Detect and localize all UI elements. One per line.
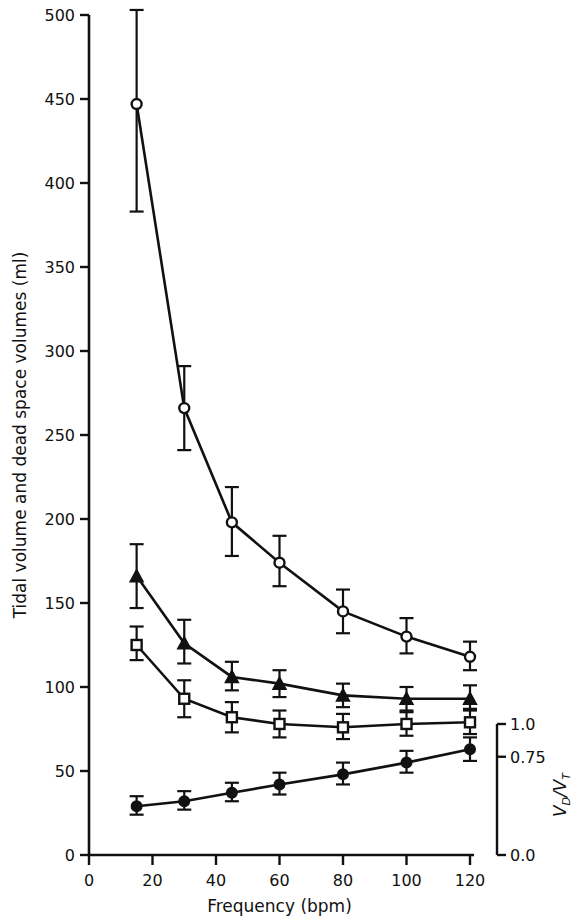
y-axis-title: Tidal volume and dead space volumes (ml) <box>10 252 30 620</box>
marker-filled-circle <box>338 769 348 779</box>
marker-filled-circle <box>132 801 142 811</box>
marker-open-square <box>402 719 412 729</box>
marker-filled-circle <box>275 779 285 789</box>
marker-open-circle <box>402 632 412 642</box>
data-series <box>130 10 477 815</box>
y-tick-label: 100 <box>44 678 75 697</box>
y2-tick-label: 0.75 <box>510 748 546 767</box>
x-axis-title: Frequency (bpm) <box>207 896 352 916</box>
marker-open-circle <box>465 652 475 662</box>
y2-tick-label: 0.0 <box>510 846 535 865</box>
marker-open-circle <box>227 517 237 527</box>
marker-open-circle <box>275 558 285 568</box>
marker-open-circle <box>132 99 142 109</box>
marker-filled-circle <box>227 788 237 798</box>
marker-open-square <box>465 717 475 727</box>
axis-labels: Frequency (bpm)Tidal volume and dead spa… <box>10 252 573 916</box>
y-tick-label: 450 <box>44 90 75 109</box>
y-tick-label: 300 <box>44 342 75 361</box>
y2-tick-label: 1.0 <box>510 715 535 734</box>
y-tick-label: 250 <box>44 426 75 445</box>
marker-open-circle <box>338 606 348 616</box>
series-line <box>137 104 470 657</box>
x-tick-label: 20 <box>142 871 162 890</box>
marker-filled-circle <box>465 744 475 754</box>
y2-axis-title: VD/VT <box>550 772 573 817</box>
marker-filled-circle <box>179 796 189 806</box>
marker-open-square <box>227 712 237 722</box>
x-tick-label: 0 <box>84 871 94 890</box>
marker-open-square <box>179 694 189 704</box>
y-tick-label: 200 <box>44 510 75 529</box>
x-tick-label: 60 <box>269 871 289 890</box>
series-4 <box>130 737 477 814</box>
x-tick-label: 80 <box>333 871 353 890</box>
y-tick-label: 400 <box>44 174 75 193</box>
marker-open-square <box>338 722 348 732</box>
y-tick-label: 350 <box>44 258 75 277</box>
x-tick-label: 40 <box>206 871 226 890</box>
y-tick-label: 50 <box>55 762 75 781</box>
line-chart: 0501001502002503003504004505000204060801… <box>0 0 581 924</box>
series-2 <box>130 544 477 710</box>
x-tick-label: 100 <box>391 871 422 890</box>
marker-filled-triangle <box>130 570 143 582</box>
y-tick-label: 150 <box>44 594 75 613</box>
x-tick-label: 120 <box>455 871 486 890</box>
y-tick-label: 500 <box>44 6 75 25</box>
series-1 <box>130 10 477 670</box>
svg-text:VD/VT: VD/VT <box>550 772 573 817</box>
marker-open-square <box>275 719 285 729</box>
marker-open-circle <box>179 403 189 413</box>
marker-filled-circle <box>402 758 412 768</box>
series-line <box>137 645 470 727</box>
y-tick-label: 0 <box>65 846 75 865</box>
figure-container: 0501001502002503003504004505000204060801… <box>0 0 581 924</box>
marker-open-square <box>132 640 142 650</box>
